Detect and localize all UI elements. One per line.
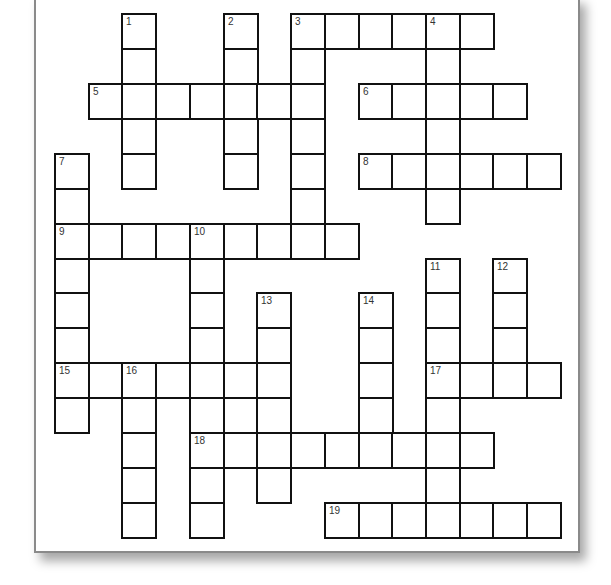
crossword-cell[interactable]: [425, 432, 461, 469]
crossword-cell[interactable]: [223, 432, 259, 469]
crossword-cell[interactable]: [121, 467, 157, 504]
crossword-cell[interactable]: [121, 153, 157, 190]
crossword-cell[interactable]: [425, 467, 461, 504]
crossword-cell[interactable]: [492, 502, 528, 539]
crossword-cell[interactable]: 12: [492, 258, 528, 295]
crossword-cell[interactable]: [54, 188, 90, 225]
crossword-cell[interactable]: [391, 13, 427, 50]
crossword-cell[interactable]: 8: [358, 153, 394, 190]
crossword-cell[interactable]: [492, 153, 528, 190]
crossword-cell[interactable]: 14: [358, 292, 394, 329]
crossword-cell[interactable]: [324, 432, 360, 469]
crossword-cell[interactable]: [459, 83, 495, 120]
crossword-cell[interactable]: [425, 502, 461, 539]
crossword-cell[interactable]: [391, 153, 427, 190]
crossword-cell[interactable]: [290, 48, 326, 85]
crossword-cell[interactable]: 10: [189, 223, 225, 260]
crossword-cell[interactable]: [189, 83, 225, 120]
crossword-cell[interactable]: [54, 327, 90, 364]
crossword-cell[interactable]: [256, 467, 292, 504]
crossword-cell[interactable]: [155, 223, 191, 260]
crossword-cell[interactable]: [121, 432, 157, 469]
crossword-cell[interactable]: [358, 502, 394, 539]
crossword-cell[interactable]: [223, 48, 259, 85]
crossword-cell[interactable]: [391, 432, 427, 469]
crossword-cell[interactable]: [189, 502, 225, 539]
crossword-cell[interactable]: [459, 13, 495, 50]
crossword-cell[interactable]: [189, 362, 225, 399]
crossword-cell[interactable]: [189, 467, 225, 504]
crossword-cell[interactable]: [223, 153, 259, 190]
crossword-cell[interactable]: [425, 397, 461, 434]
crossword-cell[interactable]: 19: [324, 502, 360, 539]
crossword-cell[interactable]: [223, 118, 259, 155]
crossword-cell[interactable]: [223, 362, 259, 399]
crossword-cell[interactable]: [223, 223, 259, 260]
crossword-cell[interactable]: [256, 327, 292, 364]
crossword-cell[interactable]: [526, 502, 562, 539]
crossword-cell[interactable]: [425, 153, 461, 190]
crossword-cell[interactable]: 11: [425, 258, 461, 295]
crossword-cell[interactable]: [223, 83, 259, 120]
crossword-cell[interactable]: 1: [121, 13, 157, 50]
crossword-cell[interactable]: [290, 223, 326, 260]
crossword-cell[interactable]: [425, 327, 461, 364]
crossword-cell[interactable]: [256, 397, 292, 434]
crossword-cell[interactable]: [492, 362, 528, 399]
crossword-cell[interactable]: [189, 258, 225, 295]
crossword-cell[interactable]: [88, 223, 124, 260]
crossword-cell[interactable]: [121, 502, 157, 539]
crossword-cell[interactable]: [459, 502, 495, 539]
crossword-cell[interactable]: [492, 327, 528, 364]
crossword-cell[interactable]: [459, 153, 495, 190]
crossword-cell[interactable]: [290, 118, 326, 155]
crossword-cell[interactable]: 17: [425, 362, 461, 399]
crossword-cell[interactable]: [256, 362, 292, 399]
crossword-cell[interactable]: 16: [121, 362, 157, 399]
crossword-cell[interactable]: [358, 362, 394, 399]
crossword-cell[interactable]: 9: [54, 223, 90, 260]
crossword-cell[interactable]: 13: [256, 292, 292, 329]
crossword-cell[interactable]: [290, 188, 326, 225]
crossword-cell[interactable]: [189, 397, 225, 434]
crossword-cell[interactable]: [425, 83, 461, 120]
crossword-cell[interactable]: [358, 397, 394, 434]
crossword-cell[interactable]: [358, 13, 394, 50]
crossword-cell[interactable]: [189, 292, 225, 329]
crossword-cell[interactable]: [290, 153, 326, 190]
crossword-cell[interactable]: [121, 118, 157, 155]
crossword-cell[interactable]: [425, 188, 461, 225]
crossword-cell[interactable]: 2: [223, 13, 259, 50]
crossword-cell[interactable]: [54, 258, 90, 295]
crossword-cell[interactable]: [459, 362, 495, 399]
crossword-cell[interactable]: [290, 83, 326, 120]
crossword-cell[interactable]: [492, 292, 528, 329]
crossword-cell[interactable]: [256, 223, 292, 260]
crossword-cell[interactable]: [391, 502, 427, 539]
crossword-cell[interactable]: [54, 397, 90, 434]
crossword-cell[interactable]: [121, 397, 157, 434]
crossword-cell[interactable]: [391, 83, 427, 120]
crossword-cell[interactable]: [492, 83, 528, 120]
crossword-cell[interactable]: 3: [290, 13, 326, 50]
crossword-cell[interactable]: 18: [189, 432, 225, 469]
crossword-cell[interactable]: [358, 327, 394, 364]
crossword-cell[interactable]: [256, 432, 292, 469]
crossword-cell[interactable]: [256, 83, 292, 120]
crossword-cell[interactable]: 6: [358, 83, 394, 120]
crossword-cell[interactable]: [324, 13, 360, 50]
crossword-cell[interactable]: [425, 118, 461, 155]
crossword-cell[interactable]: [324, 223, 360, 260]
crossword-cell[interactable]: [189, 327, 225, 364]
crossword-cell[interactable]: [358, 432, 394, 469]
crossword-cell[interactable]: [459, 432, 495, 469]
crossword-cell[interactable]: [121, 83, 157, 120]
crossword-cell[interactable]: [425, 48, 461, 85]
crossword-cell[interactable]: [526, 362, 562, 399]
crossword-cell[interactable]: 15: [54, 362, 90, 399]
crossword-cell[interactable]: [54, 292, 90, 329]
crossword-cell[interactable]: [290, 432, 326, 469]
crossword-cell[interactable]: [155, 83, 191, 120]
crossword-cell[interactable]: 7: [54, 153, 90, 190]
crossword-cell[interactable]: [121, 223, 157, 260]
